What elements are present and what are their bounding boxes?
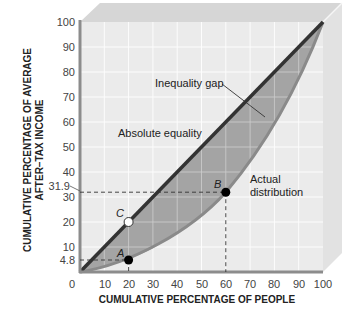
y-axis-title-line2: AFTER–TAX INCOME [34,99,45,200]
point-a [124,256,133,265]
point-c-label: C [116,207,124,219]
x-tick-60: 60 [220,278,232,290]
y-tick-90: 90 [63,41,75,53]
y-tick-70: 70 [63,91,75,103]
y-tick-60: 60 [63,116,75,128]
x-tick-20: 20 [123,278,135,290]
actual-distribution-label-2: distribution [250,186,303,198]
frame-top-bevel [80,3,342,22]
lorenz-curve-chart: A B C Inequality gap Absolute equality A… [0,0,350,319]
actual-distribution-label-1: Actual [250,173,281,185]
y-tick-80: 80 [63,66,75,78]
absolute-equality-label: Absolute equality [118,127,202,139]
x-tick-100: 100 [314,278,332,290]
y-tick-100: 100 [57,16,75,28]
y-tick-20: 20 [63,216,75,228]
y-axis-title-line1: CUMULATIVE PERCENTAGE OF AVERAGE [22,48,33,252]
y-tick-50: 50 [63,141,75,153]
frame-right-bevel [323,3,342,272]
point-b [221,188,230,197]
point-c [124,218,133,227]
x-tick-0: 0 [69,278,75,290]
x-tick-10: 10 [99,278,111,290]
x-tick-40: 40 [171,278,183,290]
x-tick-70: 70 [244,278,256,290]
x-tick-90: 90 [293,278,305,290]
x-tick-30: 30 [147,278,159,290]
point-a-label: A [116,247,124,259]
x-axis-title: CUMULATIVE PERCENTAGE OF PEOPLE [99,294,296,305]
y-tick-10: 10 [63,241,75,253]
x-tick-80: 80 [268,278,280,290]
y-tick-4-8: 4.8 [60,254,75,266]
y-tick-30: 30 [63,191,75,203]
inequality-gap-label: Inequality gap [155,77,224,89]
point-b-label: B [214,178,221,190]
y-tick-40: 40 [63,166,75,178]
x-tick-50: 50 [196,278,208,290]
